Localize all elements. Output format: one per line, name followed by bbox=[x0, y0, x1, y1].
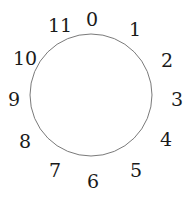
clock-label-1: 1 bbox=[129, 20, 141, 39]
clock-label-6: 6 bbox=[87, 172, 99, 191]
clock-label-5: 5 bbox=[130, 161, 142, 180]
clock-label-8: 8 bbox=[19, 132, 31, 151]
clock-label-10: 10 bbox=[13, 49, 37, 68]
clock-diagram: 01234567891011 bbox=[0, 0, 192, 199]
clock-label-9: 9 bbox=[8, 90, 20, 109]
clock-label-7: 7 bbox=[49, 161, 61, 180]
clock-label-4: 4 bbox=[160, 130, 172, 149]
clock-label-2: 2 bbox=[161, 51, 173, 70]
clock-label-11: 11 bbox=[48, 16, 72, 35]
clock-label-0: 0 bbox=[86, 10, 98, 29]
clock-label-3: 3 bbox=[171, 90, 183, 109]
clock-circle bbox=[30, 34, 152, 156]
